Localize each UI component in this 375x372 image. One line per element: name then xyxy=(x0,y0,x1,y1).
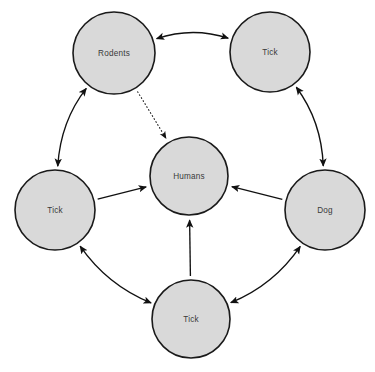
node-tick-top[interactable]: Tick xyxy=(230,12,310,92)
edge-tick-bottom-humans xyxy=(190,220,191,276)
edge-dog-humans xyxy=(232,187,282,200)
node-circle-tick-bottom[interactable] xyxy=(152,280,230,358)
node-rodents[interactable]: Rodents xyxy=(73,12,155,94)
diagram-canvas: RodentsTickHumansTickDogTick xyxy=(0,0,375,372)
edge-tick-left-tick-bottom xyxy=(80,246,151,303)
node-circle-humans[interactable] xyxy=(150,137,228,215)
node-tick-left[interactable]: Tick xyxy=(15,170,95,250)
edge-rodents-tick-top xyxy=(157,32,229,38)
nodes-layer: RodentsTickHumansTickDogTick xyxy=(15,12,365,358)
node-circle-rodents[interactable] xyxy=(73,12,155,94)
edge-rodents-tick-left xyxy=(58,88,87,166)
edge-rodents-humans xyxy=(137,91,166,138)
edge-tick-bottom-dog xyxy=(231,246,300,302)
edge-tick-left-humans xyxy=(98,187,147,199)
node-humans[interactable]: Humans xyxy=(150,137,228,215)
transmission-cycle-diagram: RodentsTickHumansTickDogTick xyxy=(0,0,375,372)
node-dog[interactable]: Dog xyxy=(285,170,365,250)
node-circle-tick-top[interactable] xyxy=(230,12,310,92)
node-tick-bottom[interactable]: Tick xyxy=(152,280,230,358)
edge-tick-top-dog xyxy=(296,87,323,166)
node-circle-dog[interactable] xyxy=(285,170,365,250)
node-circle-tick-left[interactable] xyxy=(15,170,95,250)
